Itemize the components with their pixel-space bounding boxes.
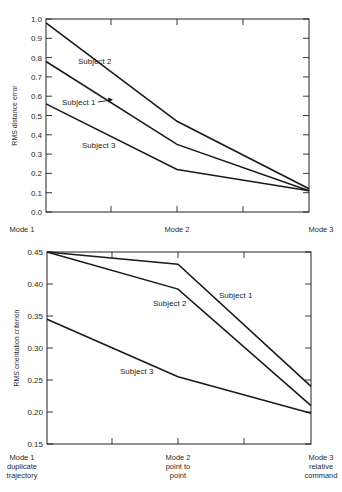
y-tick-label: 0.2 <box>31 169 43 178</box>
y-tick-label: 0.9 <box>31 34 43 43</box>
y-tick-label: 0.35 <box>27 312 43 321</box>
x-category-label: Mode 3 <box>308 453 333 462</box>
y-tick-label: 0.15 <box>27 440 43 449</box>
series-line-subject-1 <box>46 62 309 191</box>
series-line-subject-3 <box>47 319 311 413</box>
x-category-sublabel: point <box>170 471 187 480</box>
series-annotation: Subject 3 <box>82 141 116 150</box>
y-tick-label: 0.30 <box>27 344 43 353</box>
y-tick-label: 0.1 <box>31 189 43 198</box>
plot-frame <box>46 19 309 212</box>
x-category-sublabel: command <box>305 471 338 480</box>
y-tick-label: 1.0 <box>31 15 43 24</box>
y-tick-label: 0.6 <box>31 92 43 101</box>
x-category-sublabel: trajectory <box>7 471 38 480</box>
y-tick-label: 0.0 <box>31 208 43 217</box>
series-annotation: Subject 1 <box>219 291 253 300</box>
y-axis-title: RMS distance error <box>11 85 18 146</box>
y-tick-label: 0.5 <box>31 112 43 121</box>
x-category-label: Mode 2 <box>164 225 189 234</box>
series-annotation: Subject 1 <box>62 98 96 107</box>
plot-frame <box>47 252 311 444</box>
x-category-label: Mode 1 <box>9 225 34 234</box>
x-category-label: Mode 3 <box>308 225 333 234</box>
series-line-subject-2 <box>47 252 311 406</box>
x-category-label: Mode 2 <box>165 453 190 462</box>
series-line-subject-1 <box>47 252 311 386</box>
y-axis-title: RMS orientation criterion <box>13 309 20 386</box>
y-tick-label: 0.45 <box>27 248 43 257</box>
y-tick-label: 0.3 <box>31 150 43 159</box>
x-category-label: Mode 1 <box>9 453 34 462</box>
y-tick-label: 0.20 <box>27 408 43 417</box>
bottom-chart-orientation-criterion: 0.150.200.250.300.350.400.45RMS orientat… <box>7 248 338 480</box>
y-tick-label: 0.4 <box>31 131 43 140</box>
y-tick-label: 0.7 <box>31 73 43 82</box>
y-tick-label: 0.8 <box>31 54 43 63</box>
x-category-sublabel: point to <box>166 462 191 471</box>
y-tick-label: 0.25 <box>27 376 43 385</box>
series-annotation: Subject 2 <box>78 57 112 66</box>
x-category-sublabel: relative <box>309 462 333 471</box>
series-annotation: Subject 3 <box>120 367 154 376</box>
top-chart-distance-error: 0.00.10.20.30.40.50.60.70.80.91.0RMS dis… <box>9 15 333 234</box>
x-category-sublabel: duplicate <box>7 462 37 471</box>
series-annotation: Subject 2 <box>153 299 187 308</box>
y-tick-label: 0.40 <box>27 280 43 289</box>
figure: 0.00.10.20.30.40.50.60.70.80.91.0RMS dis… <box>0 0 342 492</box>
